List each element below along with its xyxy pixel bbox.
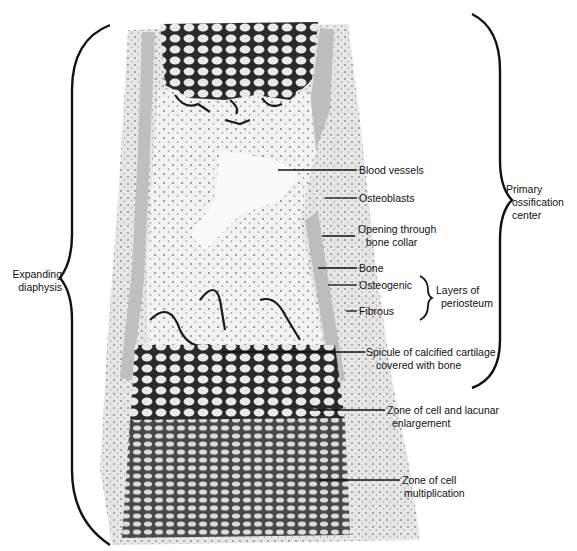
label-osteogenic: Osteogenic <box>359 279 412 292</box>
zone-enlargement-region <box>130 345 345 425</box>
periosteum-brace <box>420 276 432 320</box>
label-zone-multiplication: Zone of cell multiplication <box>402 474 465 500</box>
label-fibrous: Fibrous <box>359 305 394 318</box>
label-blood-vessels: Blood vessels <box>359 164 424 177</box>
zone-multiplication-region <box>122 418 350 538</box>
label-expanding-diaphysis: Expanding diaphysis <box>6 268 62 294</box>
top-cartilage <box>160 22 318 100</box>
label-osteoblasts: Osteoblasts <box>359 192 414 205</box>
label-primary-ossification-center: Primary ossification center <box>506 183 564 222</box>
marrow-cavity <box>146 90 330 380</box>
bone-histology-figure <box>0 0 577 551</box>
label-layers-of-periosteum: Layers of periosteum <box>436 284 493 310</box>
label-zone-enlargement: Zone of cell and lacunar enlargement <box>387 404 499 430</box>
label-bone: Bone <box>359 262 384 275</box>
label-spicule: Spicule of calcified cartilage covered w… <box>366 346 496 372</box>
label-opening-through-bone-collar: Opening through bone collar <box>358 223 436 249</box>
